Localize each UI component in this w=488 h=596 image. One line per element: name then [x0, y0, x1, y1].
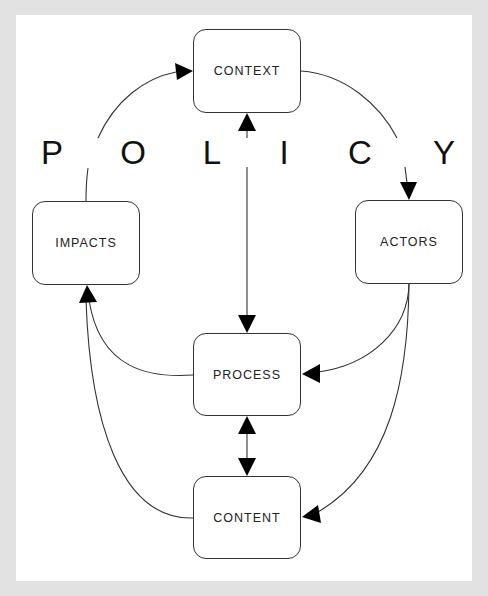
node-label: ACTORS	[380, 235, 438, 249]
edge-context-process	[238, 113, 256, 333]
arrowhead-up-icon	[238, 416, 256, 434]
node-impacts: IMPACTS	[32, 201, 140, 285]
policy-letter-l: L	[203, 136, 221, 169]
arrowhead-icon	[302, 364, 320, 383]
node-label: CONTENT	[213, 511, 280, 525]
arrowhead-up-icon	[79, 285, 97, 303]
arrowhead-down-icon	[238, 315, 256, 333]
edge-process-to-impacts	[89, 300, 193, 376]
node-label: PROCESS	[213, 368, 281, 382]
edge-content-to-impacts	[79, 285, 193, 518]
node-process: PROCESS	[193, 333, 301, 416]
policy-letter-y: Y	[433, 136, 455, 169]
node-label: IMPACTS	[55, 236, 117, 250]
node-context: CONTEXT	[193, 29, 301, 113]
policy-letter-i: I	[279, 136, 288, 169]
node-content: CONTENT	[193, 476, 301, 559]
node-label: CONTEXT	[214, 64, 281, 78]
policy-letter-p: P	[41, 136, 63, 169]
edge-process-content	[238, 416, 256, 476]
edge-actors-to-process	[302, 284, 409, 383]
arrowhead-icon	[175, 63, 193, 80]
arrowhead-icon	[400, 182, 417, 200]
policy-letter-c: C	[348, 136, 372, 169]
edge-actors-to-content	[302, 284, 409, 523]
arrowhead-icon	[302, 505, 321, 523]
node-actors: ACTORS	[355, 200, 463, 284]
diagram-stage: P O L I C Y CONTEXT IMPACTS ACTORS PROCE…	[0, 0, 488, 596]
arrowhead-up-icon	[238, 113, 256, 131]
edge-impacts-to-context	[86, 63, 193, 201]
arrowhead-down-icon	[238, 458, 256, 476]
policy-letter-o: O	[120, 136, 146, 169]
